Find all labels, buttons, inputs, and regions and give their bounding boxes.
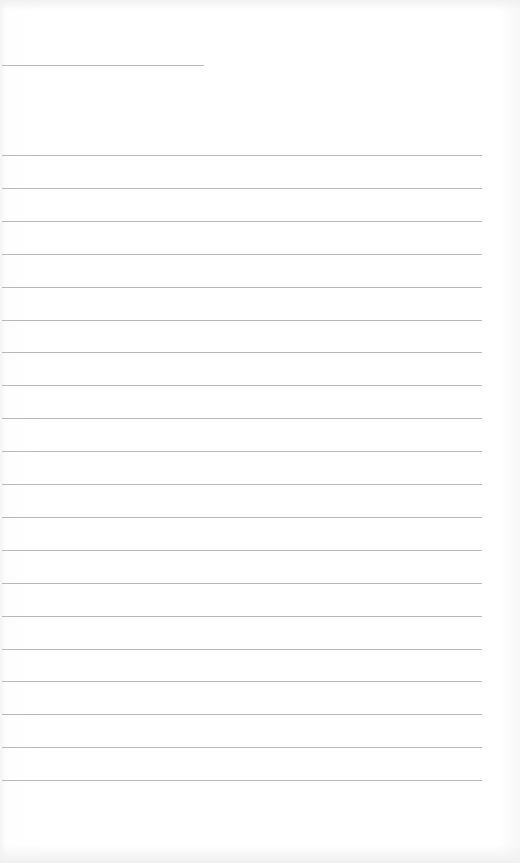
ruled-line — [2, 155, 482, 156]
header-rule — [2, 65, 204, 66]
ruled-line — [2, 517, 482, 518]
page-top-shadow — [0, 0, 520, 10]
ruled-line — [2, 254, 482, 255]
ruled-line — [2, 747, 482, 748]
ruled-line — [2, 418, 482, 419]
ruled-line — [2, 714, 482, 715]
page-bottom-shadow — [0, 845, 520, 863]
ruled-line — [2, 385, 482, 386]
ruled-line — [2, 484, 482, 485]
ruled-line — [2, 550, 482, 551]
ruled-line — [2, 352, 482, 353]
ruled-line — [2, 287, 482, 288]
ruled-line — [2, 320, 482, 321]
ruled-line — [2, 221, 482, 222]
ruled-line — [2, 649, 482, 650]
ruled-line — [2, 681, 482, 682]
ruled-line — [2, 780, 482, 781]
ruled-line — [2, 188, 482, 189]
ruled-line — [2, 616, 482, 617]
ruled-line — [2, 583, 482, 584]
ruled-line — [2, 451, 482, 452]
lined-paper-page — [0, 0, 520, 863]
